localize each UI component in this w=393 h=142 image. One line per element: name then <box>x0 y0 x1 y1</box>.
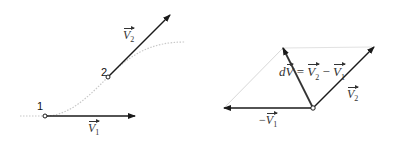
point-1-label: 1 <box>37 100 43 112</box>
v2-label: V2 <box>123 28 134 44</box>
trajectory-dotted-curve <box>20 42 185 116</box>
v1-label: V1 <box>88 121 99 137</box>
parallelogram-guide-left <box>224 48 283 108</box>
v2-label-right: V2 <box>347 87 358 103</box>
v2-arrow <box>108 15 170 77</box>
origin-marker <box>311 106 315 110</box>
point-1-marker <box>43 114 47 118</box>
point-2-label: 2 <box>101 66 107 78</box>
dv-equation-label: dV = V2 − V1 <box>279 64 345 82</box>
parallelogram-guide-top <box>283 47 372 48</box>
neg-v1-label: −V1 <box>259 113 277 129</box>
